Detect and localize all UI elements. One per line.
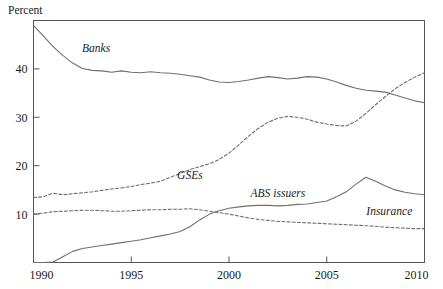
chart-container: Percent 10203040 19901995200020052010 Ba… xyxy=(0,0,443,289)
chart-background xyxy=(0,0,443,289)
y-tick-label: 30 xyxy=(16,111,28,125)
x-tick-label: 1990 xyxy=(30,268,54,282)
financial-sector-shares-line-chart: Percent 10203040 19901995200020052010 Ba… xyxy=(0,0,443,289)
series-label-gses: GSEs xyxy=(177,169,203,181)
y-tick-label: 10 xyxy=(16,208,28,222)
series-label-abs-issuers: ABS issuers xyxy=(250,187,306,199)
x-tick-label: 2005 xyxy=(315,268,339,282)
y-tick-label: 20 xyxy=(16,159,28,173)
y-axis-title: Percent xyxy=(8,4,43,16)
series-label-banks: Banks xyxy=(82,42,111,54)
x-tick-label: 1995 xyxy=(119,268,143,282)
x-tick-label: 2000 xyxy=(217,268,241,282)
series-label-insurance: Insurance xyxy=(365,205,412,217)
y-tick-label: 40 xyxy=(16,62,28,76)
x-tick-label: 2010 xyxy=(405,268,429,282)
